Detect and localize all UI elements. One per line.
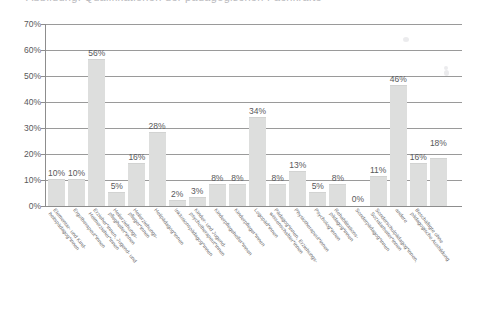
bar-chart: 0%10%20%30%40%50%60%70% 10%10%56%5%16%28… [0, 0, 479, 315]
bar-value-label: 0% [344, 195, 373, 204]
category-label: andere [394, 207, 409, 224]
y-axis-label: 10% [5, 176, 41, 185]
y-axis-label: 70% [5, 20, 41, 29]
bar-value-label: 16% [404, 153, 433, 162]
y-axis-label: 0% [5, 202, 41, 211]
category-labels-layer: Elementar- und Kind-heitspädagog*innenEr… [46, 207, 479, 315]
bar-value-label: 28% [143, 122, 172, 131]
y-axis-label: 60% [5, 46, 41, 55]
bar-value-label: 34% [243, 107, 272, 116]
bar-value-label: 5% [303, 182, 332, 191]
bar-value-label: 3% [183, 187, 212, 196]
y-axis-label: 50% [5, 72, 41, 81]
y-axis-label: 30% [5, 124, 41, 133]
bar-value-label: 56% [82, 49, 111, 58]
value-labels-layer: 10%10%56%5%16%28%2%3%8%8%34%8%13%5%8%0%1… [46, 24, 462, 206]
bar-value-label: 10% [62, 169, 91, 178]
y-axis-label: 40% [5, 98, 41, 107]
y-axis-label: 20% [5, 150, 41, 159]
bar-value-label: 8% [223, 174, 252, 183]
bar-value-label: 8% [323, 174, 352, 183]
y-axis-labels: 0%10%20%30%40%50%60%70% [0, 0, 41, 315]
bar-value-label: 18% [424, 139, 453, 148]
scan-artifact [444, 70, 449, 76]
bar-value-label: 5% [102, 182, 131, 191]
bar-value-label: 8% [263, 174, 292, 183]
bar-value-label: 11% [364, 166, 393, 175]
scan-artifact [403, 37, 409, 42]
scan-artifact [444, 66, 448, 70]
bar-value-label: 16% [122, 153, 151, 162]
bar-value-label: 13% [283, 161, 312, 170]
bar-value-label: 46% [384, 75, 413, 84]
